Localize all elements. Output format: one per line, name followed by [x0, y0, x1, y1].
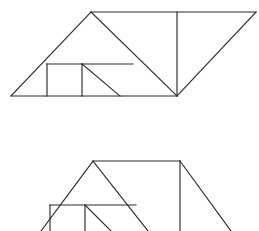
canvas-background — [0, 0, 259, 231]
geometric-figure-canvas — [0, 0, 259, 231]
